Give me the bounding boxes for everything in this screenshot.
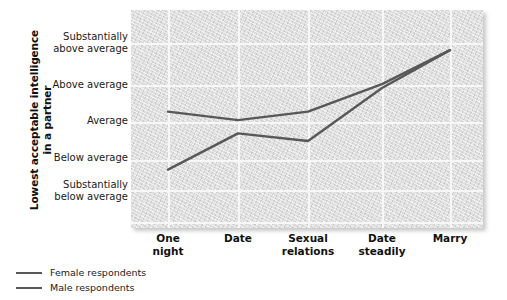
y-axis-tick-labels: Substantially above average Above averag… (38, 0, 128, 300)
x-tick-marry: Marry (402, 232, 498, 245)
legend-item-male-respondents: Male respondents (14, 280, 274, 295)
legend-label-female: Female respondents (50, 267, 146, 278)
chart-legend: Female respondents Male respondents (14, 265, 274, 295)
legend-line-swatch-icon (14, 283, 44, 293)
legend-label-male: Male respondents (50, 282, 134, 293)
legend-line-swatch-icon (14, 268, 44, 278)
legend-item-female-respondents: Female respondents (14, 265, 274, 280)
plot-area (131, 10, 483, 228)
line-chart-figure: Lowest acceptable intelligence in a part… (0, 0, 507, 300)
series-line-male-respondents (168, 50, 450, 169)
y-tick-above-average: Above average (38, 79, 128, 91)
y-tick-below-average: Below average (38, 152, 128, 164)
y-tick-substantially-above-average: Substantially above average (38, 31, 128, 54)
x-axis-tick-labels: One night Date Sexual relations Date ste… (131, 232, 483, 266)
series-line-female-respondents (168, 50, 450, 120)
y-tick-average: Average (38, 115, 128, 127)
y-tick-substantially-below-average: Substantially below average (38, 179, 128, 202)
series-lines (131, 10, 483, 228)
